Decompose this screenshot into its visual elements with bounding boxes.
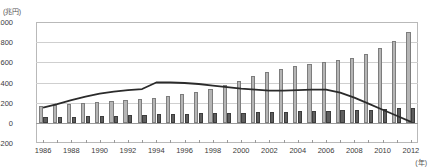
x-tick-label: 1996 <box>176 146 193 155</box>
x-axis-tick-labels: 1986198819901992199419961998200020022004… <box>36 146 418 158</box>
y-tick-label: 400 <box>0 79 13 88</box>
x-tick-label: 1990 <box>91 146 108 155</box>
x-tick-label: 2002 <box>261 146 278 155</box>
plot-area <box>36 22 418 143</box>
x-axis-unit-label: (年) <box>415 157 427 167</box>
x-tick-label: 1992 <box>120 146 137 155</box>
y-tick-label: 0 <box>0 119 13 128</box>
line-path <box>43 83 411 122</box>
y-tick-label: 1000 <box>0 18 13 27</box>
x-tick-label: 2006 <box>318 146 335 155</box>
y-axis-unit-label: (兆円) <box>3 6 21 16</box>
y-tick-label: 800 <box>0 38 13 47</box>
x-tick-label: 2008 <box>346 146 363 155</box>
x-tick-label: 2004 <box>289 146 306 155</box>
x-tick-label: 2012 <box>403 146 420 155</box>
x-tick-label: 2000 <box>233 146 250 155</box>
x-tick-label: 1986 <box>35 146 52 155</box>
y-tick-label: -200 <box>0 139 13 148</box>
chart-container: (兆円) 10008006004002000-200 1986198819901… <box>0 0 431 168</box>
x-tick-label: 1988 <box>63 146 80 155</box>
x-tick-label: 1994 <box>148 146 165 155</box>
x-tick-label: 2010 <box>374 146 391 155</box>
y-tick-label: 200 <box>0 99 13 108</box>
y-tick-label: 600 <box>0 58 13 67</box>
line-series-group <box>36 22 418 143</box>
x-tick-label: 1998 <box>205 146 222 155</box>
